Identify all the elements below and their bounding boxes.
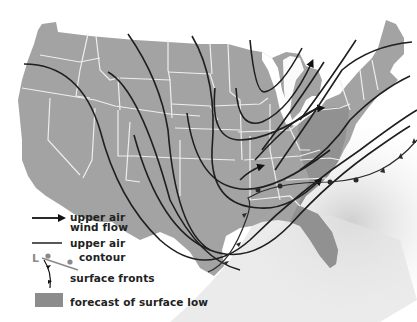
legend-label-contour-2: contour	[79, 252, 126, 262]
low-marker-L: L	[32, 252, 39, 265]
legend: L upper air wind flow upper air contour …	[0, 200, 220, 320]
legend-label-forecast-low: forecast of surface low	[70, 297, 208, 307]
legend-label-wind-flow-2: wind flow	[70, 222, 128, 232]
wind-flow-arrow-icon	[32, 214, 66, 222]
legend-label-surface-fronts: surface fronts	[70, 273, 155, 283]
legend-label-contour-1: upper air	[70, 238, 125, 248]
forecast-low-swatch	[35, 293, 63, 307]
